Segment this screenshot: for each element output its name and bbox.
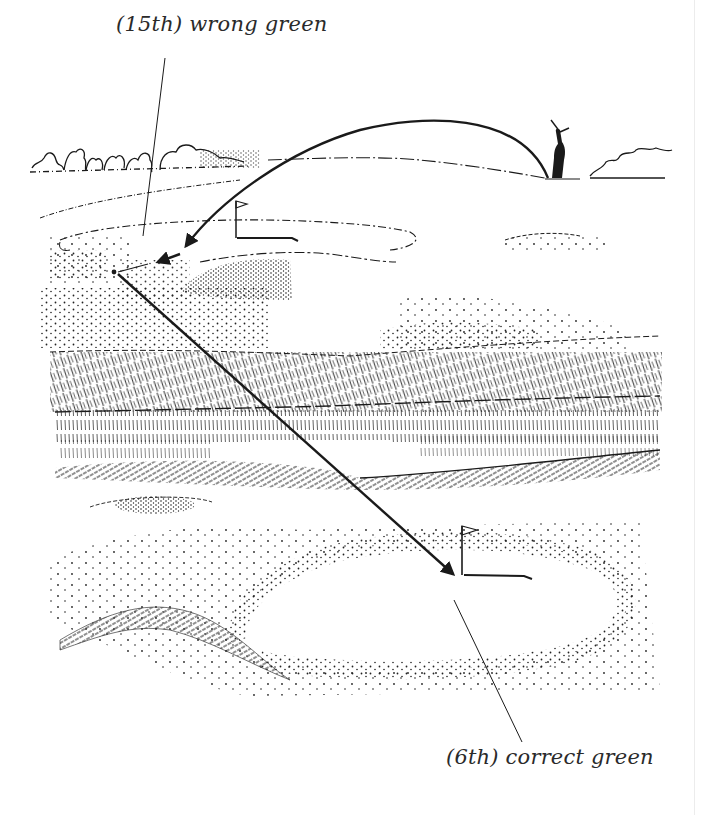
horizon-trees-right — [590, 148, 672, 178]
woods-band — [50, 336, 662, 462]
golfer-silhouette — [545, 120, 580, 179]
leader-line-wrong — [143, 58, 165, 236]
golf-course-illustration — [0, 0, 703, 815]
correct-green-label: (6th) correct green — [446, 745, 654, 769]
curved-arrow — [186, 121, 548, 246]
horizon-line — [268, 158, 545, 178]
wrong-green-label: (15th) wrong green — [116, 12, 328, 36]
